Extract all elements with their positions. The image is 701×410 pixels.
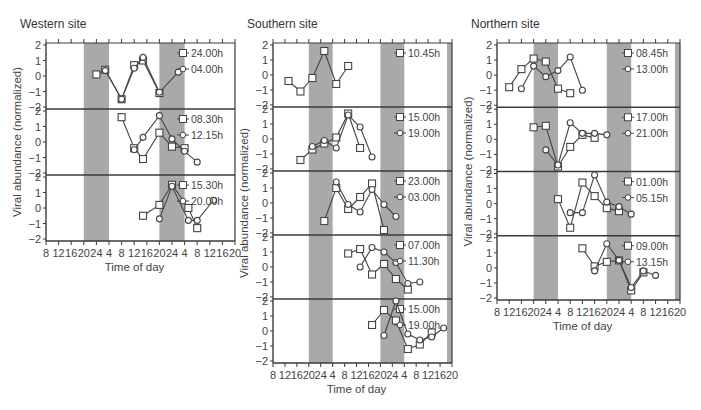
diamond-marker-icon bbox=[417, 337, 423, 343]
y-tick-label: 1 bbox=[262, 182, 268, 194]
square-marker-icon bbox=[169, 143, 176, 150]
x-tick-label: 8 bbox=[119, 247, 125, 259]
diamond-marker-icon bbox=[543, 147, 549, 153]
square-marker-icon bbox=[397, 242, 404, 249]
square-marker-icon bbox=[369, 322, 376, 329]
y-tick-label: 2 bbox=[262, 231, 268, 243]
y-tick-label: −1 bbox=[479, 213, 492, 225]
legend-label: 09.00h bbox=[636, 240, 668, 252]
x-tick-label: 12 bbox=[52, 247, 64, 259]
diamond-marker-icon bbox=[357, 124, 363, 130]
square-marker-icon bbox=[567, 90, 574, 97]
y-tick-label: −1 bbox=[28, 152, 41, 164]
diamond-marker-icon bbox=[429, 334, 435, 340]
square-marker-icon bbox=[321, 218, 328, 225]
square-marker-icon bbox=[591, 193, 598, 200]
square-marker-icon bbox=[380, 261, 387, 268]
diamond-marker-icon bbox=[397, 322, 403, 328]
diamond-marker-icon bbox=[182, 148, 188, 154]
y-tick-label: 2 bbox=[486, 232, 492, 244]
x-tick-label: 16 bbox=[434, 369, 446, 381]
x-tick-label: 20 bbox=[527, 306, 539, 318]
y-tick-label: −1 bbox=[255, 340, 268, 352]
square-marker-icon bbox=[180, 116, 187, 123]
diamond-marker-icon bbox=[333, 179, 339, 185]
y-tick-label: 2 bbox=[35, 171, 41, 183]
legend-label: 11.30h bbox=[408, 255, 439, 267]
diamond-marker-icon bbox=[119, 96, 125, 102]
x-tick-label: 12 bbox=[279, 369, 291, 381]
diamond-marker-icon bbox=[543, 74, 549, 80]
site-title: Northern site bbox=[471, 17, 540, 31]
legend-label: 08.30h bbox=[191, 113, 223, 125]
y-tick-label: 1 bbox=[486, 118, 492, 130]
square-marker-icon bbox=[603, 258, 610, 265]
diamond-marker-icon bbox=[345, 112, 351, 118]
y-tick-label: −1 bbox=[255, 212, 268, 224]
diamond-marker-icon bbox=[625, 130, 631, 136]
diamond-marker-icon bbox=[397, 130, 403, 136]
legend-label: 15.00h bbox=[408, 303, 440, 315]
diamond-marker-icon bbox=[592, 130, 598, 136]
square-marker-icon bbox=[369, 271, 376, 278]
square-marker-icon bbox=[625, 50, 632, 57]
x-tick-label: 4 bbox=[182, 247, 188, 259]
diamond-marker-icon bbox=[309, 144, 315, 150]
diamond-marker-icon bbox=[180, 132, 186, 138]
diamond-marker-icon bbox=[397, 258, 403, 264]
diamond-marker-icon bbox=[369, 154, 375, 160]
x-axis-label: Time of day bbox=[553, 320, 613, 332]
square-marker-icon bbox=[140, 156, 147, 163]
night-band bbox=[447, 43, 452, 363]
diamond-marker-icon bbox=[625, 259, 631, 265]
y-tick-label: −2 bbox=[28, 233, 41, 245]
x-tick-label: 8 bbox=[342, 369, 348, 381]
site-southern-site: Southern site210−1−210.45h210−1−215.00h1… bbox=[238, 17, 458, 395]
legend-label: 13.00h bbox=[636, 63, 668, 75]
x-tick-label: 12 bbox=[422, 369, 434, 381]
x-tick-label: 20 bbox=[78, 247, 90, 259]
y-tick-label: 0 bbox=[262, 133, 268, 145]
diamond-marker-icon bbox=[616, 204, 622, 210]
y-axis-label: Viral abundance (normalized) bbox=[462, 96, 474, 246]
diamond-marker-icon bbox=[628, 211, 634, 217]
square-marker-icon bbox=[625, 242, 632, 249]
x-tick-label: 20 bbox=[446, 369, 458, 381]
x-tick-label: 16 bbox=[588, 306, 600, 318]
square-marker-icon bbox=[567, 224, 574, 231]
x-tick-label: 16 bbox=[216, 247, 228, 259]
diamond-marker-icon bbox=[131, 65, 137, 71]
square-marker-icon bbox=[194, 225, 201, 232]
x-tick-label: 16 bbox=[362, 369, 374, 381]
square-marker-icon bbox=[542, 122, 549, 129]
diamond-marker-icon bbox=[592, 172, 598, 178]
x-tick-label: 16 bbox=[65, 247, 77, 259]
square-marker-icon bbox=[625, 178, 632, 185]
square-marker-icon bbox=[180, 50, 187, 57]
x-tick-label: 24 bbox=[315, 369, 327, 381]
diamond-marker-icon bbox=[333, 145, 339, 151]
y-tick-label: −1 bbox=[479, 84, 492, 96]
x-tick-label: 20 bbox=[374, 369, 386, 381]
x-tick-label: 4 bbox=[106, 247, 112, 259]
square-marker-icon bbox=[345, 63, 352, 70]
diamond-marker-icon bbox=[567, 54, 573, 60]
diamond-marker-icon bbox=[653, 272, 659, 278]
square-marker-icon bbox=[555, 196, 562, 203]
x-tick-label: 20 bbox=[153, 247, 165, 259]
y-tick-label: −1 bbox=[255, 276, 268, 288]
diamond-marker-icon bbox=[405, 331, 411, 337]
legend-label: 08.45h bbox=[636, 47, 668, 59]
diamond-marker-icon bbox=[628, 284, 634, 290]
square-marker-icon bbox=[530, 55, 537, 62]
y-tick-label: −1 bbox=[479, 148, 492, 160]
y-tick-label: 0 bbox=[35, 202, 41, 214]
square-marker-icon bbox=[518, 66, 525, 73]
y-tick-label: 1 bbox=[262, 54, 268, 66]
diamond-marker-icon bbox=[393, 298, 399, 304]
square-marker-icon bbox=[603, 205, 610, 212]
legend-label: 10.45h bbox=[408, 47, 440, 59]
diamond-marker-icon bbox=[441, 325, 447, 331]
y-tick-label: 1 bbox=[262, 118, 268, 130]
y-tick-label: 0 bbox=[262, 69, 268, 81]
